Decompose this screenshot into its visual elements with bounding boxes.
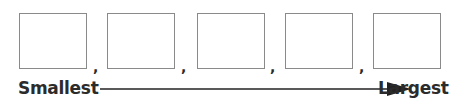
- smallest-label: Smallest: [18, 78, 98, 98]
- answer-box-4[interactable]: [285, 13, 353, 69]
- largest-label: Largest: [378, 78, 449, 98]
- answer-box-5[interactable]: [373, 13, 441, 69]
- comma-separator: ,: [181, 60, 186, 74]
- answer-box-2[interactable]: [107, 13, 175, 69]
- answer-box-1[interactable]: [19, 13, 87, 69]
- arrow-right-icon: [100, 82, 416, 96]
- answer-box-3[interactable]: [197, 13, 265, 69]
- comma-separator: ,: [270, 60, 275, 74]
- comma-separator: ,: [93, 60, 98, 74]
- comma-separator: ,: [359, 60, 364, 74]
